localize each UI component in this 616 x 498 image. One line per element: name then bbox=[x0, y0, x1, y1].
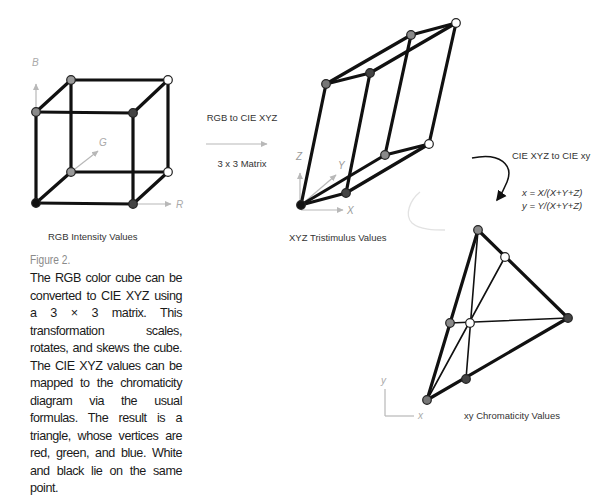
curved-arrow-icon bbox=[472, 157, 509, 200]
r-axis-label: R bbox=[176, 199, 183, 210]
vertex-cyan bbox=[67, 76, 76, 85]
rgb-to-xyz-transform: RGB to CIE XYZ 3 x 3 Matrix bbox=[206, 112, 278, 169]
faint-curve-icon bbox=[408, 192, 445, 230]
y-axis-label: Y bbox=[338, 160, 346, 171]
g-axis bbox=[71, 151, 98, 172]
xyz-vertex-cyan bbox=[407, 31, 416, 40]
xyz-panel-title: XYZ Tristimulus Values bbox=[289, 232, 387, 243]
xyz-vertex-black bbox=[297, 201, 306, 210]
rgb-to-xyz-subtitle: 3 x 3 Matrix bbox=[217, 158, 266, 169]
formula-y: y = Y/(X+Y+Z) bbox=[521, 200, 582, 211]
figure-caption-text: The RGB color cube can be con­verted to … bbox=[30, 270, 182, 498]
xy-vertex-magenta bbox=[462, 375, 471, 384]
rgb-cube: B G R RGB Intensity Values bbox=[32, 57, 184, 242]
xy-x-axis-label: x bbox=[417, 410, 424, 421]
figure-caption: Figure 2. The RGB color cube can be con­… bbox=[30, 250, 182, 498]
vertex-white bbox=[164, 76, 173, 85]
z-axis-label: Z bbox=[295, 151, 303, 162]
xy-panel-title: xy Chromaticity Values bbox=[464, 410, 560, 421]
xyz-vertex-blue bbox=[322, 80, 331, 89]
xyz-vertex-green bbox=[381, 151, 390, 160]
x-axis-label: X bbox=[346, 205, 354, 216]
xyz-vertex-red bbox=[342, 189, 351, 198]
xy-triangle: y x xy Chromaticity Values bbox=[380, 226, 572, 421]
rgb-panel-title: RGB Intensity Values bbox=[48, 231, 138, 242]
formula-x: x = X/(X+Y+Z) bbox=[521, 187, 582, 198]
vertex-blue bbox=[32, 108, 41, 117]
vertex-magenta bbox=[129, 109, 138, 118]
xyz-parallelepiped: Z Y X XYZ Tristimulus Values bbox=[289, 19, 460, 243]
vertex-green bbox=[67, 168, 76, 177]
vertex-red bbox=[129, 200, 138, 209]
xyz-vertex-magenta bbox=[366, 69, 375, 78]
xyz-vertex-white bbox=[452, 19, 461, 28]
xyz-edges bbox=[301, 23, 456, 205]
b-axis-label: B bbox=[32, 57, 39, 68]
vertex-black bbox=[32, 199, 41, 208]
xy-vertex-green bbox=[474, 226, 483, 235]
xyz-to-xy-title: CIE XYZ to CIE xy bbox=[512, 150, 590, 161]
xyz-to-xy-transform: CIE XYZ to CIE xy x = X/(X+Y+Z) y = Y/(X… bbox=[408, 150, 590, 230]
xy-vertex-yellow bbox=[446, 319, 455, 328]
xy-vertex-cyan bbox=[501, 253, 510, 262]
xy-y-axis-label: y bbox=[380, 375, 387, 386]
xy-vertex-white bbox=[466, 319, 475, 328]
figure-label: Figure 2. bbox=[30, 250, 159, 270]
rgb-to-xyz-title: RGB to CIE XYZ bbox=[207, 112, 278, 123]
g-axis-label: G bbox=[99, 137, 107, 148]
xyz-vertex-yellow bbox=[425, 140, 434, 149]
vertex-yellow bbox=[164, 168, 173, 177]
triangle-edges bbox=[427, 230, 568, 400]
xy-vertex-red bbox=[564, 314, 573, 323]
xy-vertex-blue bbox=[423, 396, 432, 405]
